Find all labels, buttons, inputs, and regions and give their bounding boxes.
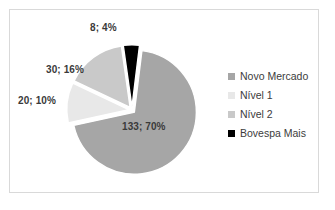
legend-swatch-icon — [228, 92, 235, 99]
slice-label-nivel-2: 30; 16% — [46, 65, 84, 75]
legend-label: Novo Mercado — [240, 71, 308, 82]
slice-label-bovespa-mais: 8; 4% — [90, 23, 117, 33]
slice-label-novo-mercado: 133; 70% — [122, 122, 166, 132]
slice-label-nivel-1: 20; 10% — [18, 96, 56, 106]
legend-item-nivel-1[interactable]: Nível 1 — [228, 86, 320, 105]
pie-slice-group — [67, 45, 197, 174]
legend-swatch-icon — [228, 73, 235, 80]
legend-item-bovespa-mais[interactable]: Bovespa Mais — [228, 124, 320, 143]
chart-frame: 133; 70% 20; 10% 30; 16% 8; 4% Novo Merc… — [9, 9, 319, 193]
chart-legend: Novo Mercado Nível 1 Nível 2 Bovespa Mai… — [228, 67, 320, 143]
legend-item-novo-mercado[interactable]: Novo Mercado — [228, 67, 320, 86]
legend-label: Bovespa Mais — [240, 128, 306, 139]
legend-item-nivel-2[interactable]: Nível 2 — [228, 105, 320, 124]
legend-label: Nível 1 — [240, 90, 273, 101]
legend-swatch-icon — [228, 130, 235, 137]
legend-label: Nível 2 — [240, 109, 273, 120]
legend-swatch-icon — [228, 111, 235, 118]
pie-chart-plot-area: 133; 70% 20; 10% 30; 16% 8; 4% — [10, 10, 235, 192]
